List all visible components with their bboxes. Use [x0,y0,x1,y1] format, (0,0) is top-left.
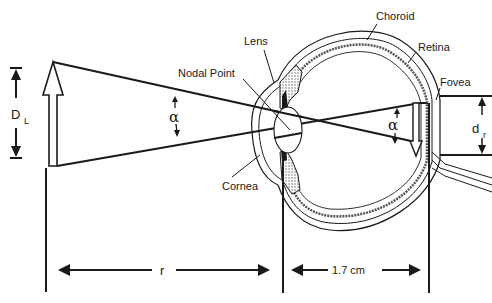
object-size-dimension: D L [10,68,29,158]
retinal-size-subscript: r [483,130,486,140]
alpha-object-label: α [169,108,179,126]
distance-eye-label: 1.7 cm [332,264,365,276]
label-nodal-point: Nodal Point [178,67,290,130]
label-cornea: Cornea [222,155,260,192]
distance-r-dimension: r [58,263,270,278]
label-retina: Retina [408,41,451,63]
choroid-label: Choroid [376,10,415,22]
object-arrow [43,62,63,166]
light-rays [53,62,428,166]
retinal-size-dimension: d [440,96,492,155]
object-angle: α [169,96,180,137]
nodal-point-label: Nodal Point [178,67,235,79]
distance-eye-dimension: 1.7 cm [291,264,421,276]
retinal-size-label: d [472,121,479,136]
retinal-image-arrow [410,103,422,156]
fovea-label: Fovea [440,76,471,88]
label-lens: Lens [244,35,274,83]
cornea-label: Cornea [222,180,259,192]
lens-label: Lens [244,35,268,47]
distance-r-label: r [160,263,165,278]
object-size-subscript: L [24,116,29,126]
eye-visual-angle-diagram: D L α [0,0,492,303]
alpha-retina-label: α [388,116,398,134]
object-size-label: D [11,107,20,122]
retina-label: Retina [418,41,451,53]
